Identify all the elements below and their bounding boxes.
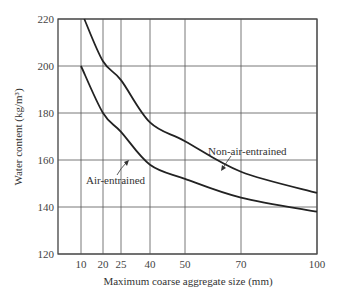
x-axis-label: Maximum coarse aggregate size (mm) xyxy=(103,275,273,288)
y-tick-label: 160 xyxy=(38,154,55,166)
y-tick-label: 180 xyxy=(38,107,55,119)
x-tick-label: 100 xyxy=(309,258,326,270)
x-tick-label: 20 xyxy=(98,258,110,270)
y-tick-label: 220 xyxy=(38,13,55,25)
x-tick-label: 25 xyxy=(116,258,128,270)
y-tick-label: 200 xyxy=(38,60,55,72)
arrowhead-non-air xyxy=(221,165,226,171)
curve-air-entrained xyxy=(81,66,317,212)
x-tick-label: 10 xyxy=(76,258,88,270)
x-tick-label: 40 xyxy=(145,258,157,270)
curve-non-air-entrained xyxy=(84,19,317,193)
chart: 120140160180200220102025405070100 Maximu… xyxy=(0,0,341,305)
grid xyxy=(58,19,317,254)
x-tick-label: 70 xyxy=(236,258,248,270)
label-air-entrained: Air-entrained xyxy=(86,174,146,186)
x-tick-label: 50 xyxy=(180,258,192,270)
plot-frame xyxy=(58,19,317,254)
y-axis-label: Water content (kg/m³) xyxy=(12,88,25,185)
y-tick-label: 140 xyxy=(38,201,55,213)
arrowhead-air xyxy=(124,160,129,166)
label-non-air-entrained: Non-air-entrained xyxy=(208,145,287,157)
y-tick-label: 120 xyxy=(38,248,55,260)
